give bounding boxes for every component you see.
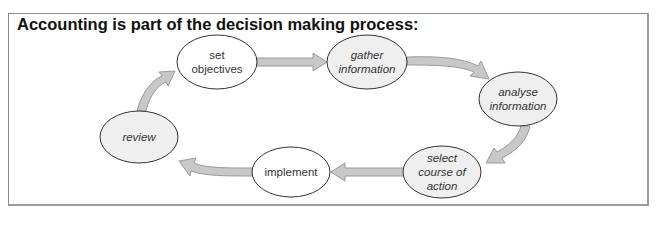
label-line: select [418, 151, 465, 165]
label-gather-information: gatherinformation [327, 35, 407, 89]
label-line: objectives [191, 62, 242, 76]
label-line: implement [264, 165, 317, 179]
label-line: gather [339, 48, 396, 62]
arrow-gather-to-analyse [407, 57, 489, 79]
label-line: analyse [490, 85, 547, 99]
arrow-review-to-set [137, 71, 175, 111]
label-line: action [418, 179, 465, 193]
label-line: review [122, 130, 155, 144]
label-line: course of [418, 165, 465, 179]
label-line: set [191, 48, 242, 62]
label-implement: implement [252, 147, 330, 197]
label-line: information [490, 99, 547, 113]
arrow-set-to-gather [257, 53, 327, 71]
label-set-objectives: setobjectives [177, 35, 257, 89]
label-analyse-information: analyseinformation [479, 72, 557, 126]
label-review: review [100, 111, 178, 163]
label-select-course-of-action: selectcourse ofaction [403, 146, 481, 198]
arrow-implement-to-review [179, 158, 253, 176]
arrow-select-to-implement [331, 163, 404, 181]
arrow-analyse-to-select [486, 126, 530, 163]
label-line: information [339, 62, 396, 76]
